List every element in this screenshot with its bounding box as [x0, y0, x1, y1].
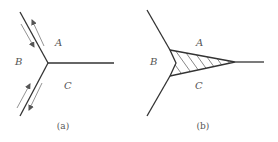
label-b-grain-c: C — [195, 80, 203, 91]
label-a-grain-c: C — [64, 80, 72, 91]
boundary-upper-a — [20, 12, 48, 63]
caption-b: (b) — [197, 121, 210, 131]
boundary-lower-a — [20, 63, 48, 116]
arrow-up-icon — [17, 84, 30, 108]
hatched-wedge — [168, 50, 240, 80]
arrow-down-icon — [21, 24, 34, 47]
label-b-grain-b: B — [149, 56, 157, 67]
boundary-upper-b — [147, 10, 170, 50]
arrow-up-icon — [32, 20, 44, 46]
panel-b: A B C (b) — [147, 10, 264, 131]
label-b-grain-a: A — [195, 37, 203, 48]
figure-canvas: A B C (a) A B C (b) — [0, 0, 278, 142]
boundary-lower-b — [147, 76, 170, 116]
panel-a: A B C (a) — [14, 12, 114, 131]
label-a-grain-b: B — [14, 56, 22, 67]
caption-a: (a) — [57, 121, 69, 131]
label-a-grain-a: A — [54, 37, 62, 48]
